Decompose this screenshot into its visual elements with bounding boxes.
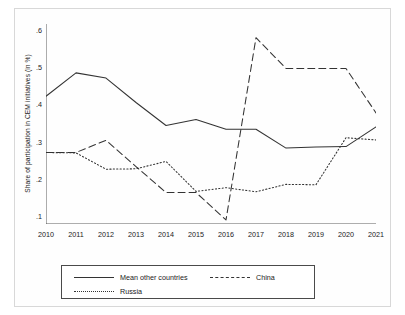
plot-svg bbox=[46, 24, 376, 224]
x-tick-label: 2018 bbox=[278, 230, 294, 239]
x-tick-label: 2011 bbox=[68, 230, 83, 239]
x-tick-label: 2021 bbox=[368, 230, 384, 239]
series-line-dashed bbox=[46, 38, 376, 220]
x-tick-label: 2013 bbox=[128, 230, 144, 239]
x-tick-label: 2012 bbox=[98, 230, 114, 239]
legend-key-dashed bbox=[210, 277, 250, 279]
y-tick-label: .5 bbox=[36, 65, 42, 72]
y-tick-label: .3 bbox=[36, 139, 42, 146]
x-tick-label: 2019 bbox=[308, 230, 324, 239]
legend-label: Russia bbox=[120, 286, 142, 297]
x-tick-label: 2020 bbox=[338, 230, 354, 239]
chart-figure: Share of participation in CEM initiative… bbox=[0, 0, 405, 315]
y-tick-label: .4 bbox=[36, 102, 42, 109]
x-tick-label: 2017 bbox=[248, 230, 264, 239]
chart-legend: Mean other countriesChinaRussia bbox=[61, 265, 315, 299]
x-axis-tick-labels: 2010201120122013201420152016201720182019… bbox=[46, 230, 376, 244]
y-tick-label: .2 bbox=[36, 176, 42, 183]
legend-key-dotted bbox=[74, 291, 114, 293]
legend-label: Mean other countries bbox=[120, 272, 188, 283]
plot-area bbox=[46, 24, 376, 224]
legend-key-solid bbox=[74, 277, 114, 279]
series-line-solid bbox=[46, 73, 376, 148]
legend-label: China bbox=[256, 272, 275, 283]
y-tick-label: .6 bbox=[36, 28, 42, 35]
series-line-dotted bbox=[46, 138, 376, 192]
x-tick-label: 2016 bbox=[218, 230, 234, 239]
y-axis-tick-labels: .1.2.3.4.5.6 bbox=[24, 24, 42, 224]
x-tick-label: 2010 bbox=[38, 230, 54, 239]
x-tick-label: 2014 bbox=[158, 230, 174, 239]
y-tick-label: .1 bbox=[36, 213, 42, 220]
x-tick-label: 2015 bbox=[188, 230, 204, 239]
